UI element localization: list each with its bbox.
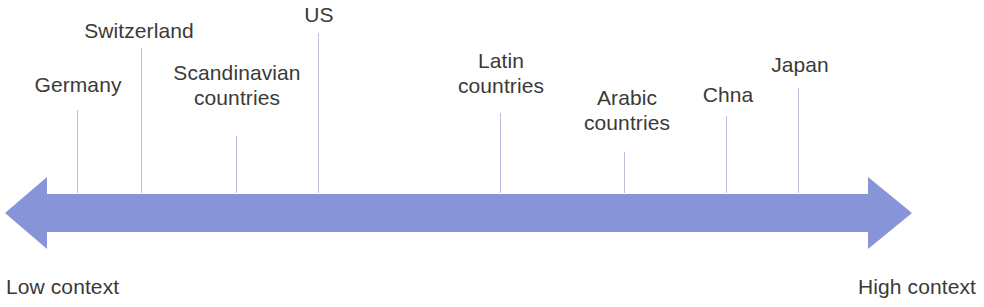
marker-label-arabic: Arabic countries [566,85,688,135]
leader-line-scandinavian [236,136,237,193]
leader-line-arabic [624,152,625,193]
marker-label-china: Chna [688,82,768,107]
leader-line-japan [798,88,799,193]
leader-line-germany [77,110,78,193]
high-context-label: High context [858,274,976,299]
leader-line-china [726,116,727,193]
low-context-label: Low context [6,274,119,299]
marker-label-japan: Japan [758,52,842,77]
context-continuum-diagram: GermanySwitzerlandScandinavian countries… [0,0,984,307]
marker-label-scandinavian: Scandinavian countries [144,60,330,110]
marker-label-germany: Germany [24,72,132,97]
leader-line-switzerland [141,48,142,193]
axis-arrow [0,0,984,307]
marker-label-us: US [290,2,348,27]
leader-line-us [318,33,319,193]
marker-label-latin: Latin countries [442,48,560,98]
leader-line-latin [500,113,501,193]
marker-label-switzerland: Switzerland [66,18,212,43]
